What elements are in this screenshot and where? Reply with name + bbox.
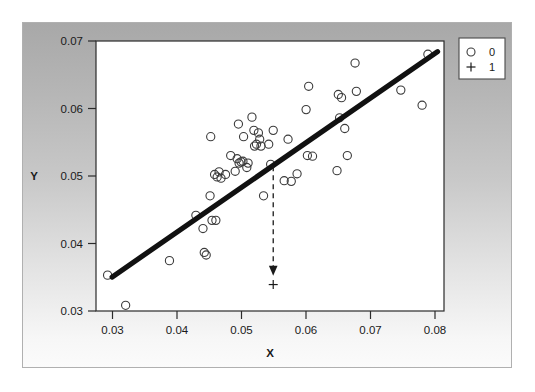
y-tick-label: 0.03 bbox=[61, 305, 83, 317]
legend-box bbox=[459, 38, 505, 79]
y-tick-label: 0.04 bbox=[61, 238, 84, 250]
x-tick-label: 0.05 bbox=[230, 324, 252, 336]
y-tick-label: 0.07 bbox=[61, 35, 83, 47]
legend: 0 1 bbox=[459, 38, 505, 79]
x-axis-title: X bbox=[266, 347, 274, 359]
legend-label: 1 bbox=[489, 61, 495, 73]
y-tick-label: 0.06 bbox=[61, 103, 83, 115]
x-tick-label: 0.08 bbox=[424, 324, 446, 336]
scatter-plot: 0.03 0.04 0.05 0.06 0.07 Y 0.03 0.04 0.0… bbox=[0, 0, 535, 392]
x-tick-label: 0.03 bbox=[101, 324, 123, 336]
y-axis-title: Y bbox=[30, 170, 38, 182]
y-axis: 0.03 0.04 0.05 0.06 0.07 bbox=[61, 35, 96, 317]
x-tick-label: 0.06 bbox=[295, 324, 317, 336]
x-tick-label: 0.04 bbox=[166, 324, 189, 336]
figure-container: 0.03 0.04 0.05 0.06 0.07 Y 0.03 0.04 0.0… bbox=[0, 0, 535, 392]
x-tick-label: 0.07 bbox=[359, 324, 381, 336]
y-tick-label: 0.05 bbox=[61, 170, 83, 182]
x-axis: 0.03 0.04 0.05 0.06 0.07 0.08 bbox=[101, 311, 446, 336]
legend-label: 0 bbox=[489, 46, 495, 58]
